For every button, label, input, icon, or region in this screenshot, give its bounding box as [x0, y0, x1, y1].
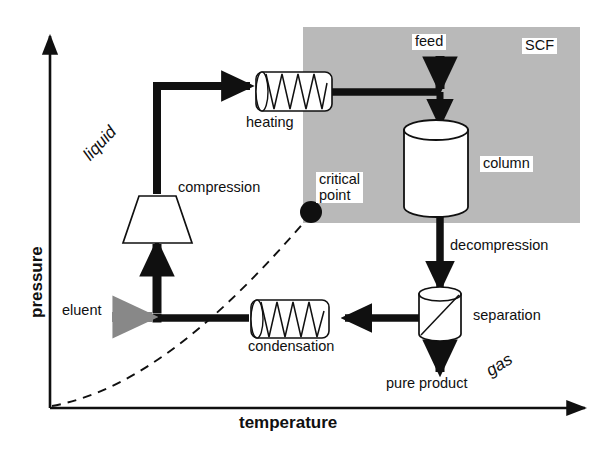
x-axis-label: temperature — [239, 414, 337, 432]
stream-label-eluent: eluent — [62, 303, 102, 319]
stream-label-feed: feed — [412, 34, 446, 50]
unit-label-compression: compression — [178, 180, 260, 196]
condensation-exchanger — [251, 300, 329, 338]
separation-column — [404, 120, 468, 217]
stream-label-pure-product: pure product — [386, 376, 467, 392]
critical-point-label: critical point — [316, 172, 363, 203]
figure-canvas: pressure temperature liquid gas SCF feed… — [0, 0, 613, 452]
unit-label-column: column — [480, 156, 533, 172]
pipe-tee-corner — [153, 314, 162, 323]
heating-exchanger — [256, 72, 332, 111]
critical-point-label-line1: critical — [319, 172, 360, 188]
y-axis-label: pressure — [28, 246, 46, 318]
compression-pump — [123, 196, 192, 243]
unit-label-heating: heating — [246, 115, 294, 131]
unit-label-condensation: condensation — [248, 339, 334, 355]
unit-label-separation: separation — [473, 308, 541, 324]
separator-vessel — [419, 287, 461, 341]
pipe-top-elbow-corner — [153, 82, 161, 90]
critical-point-dot — [300, 201, 322, 223]
phase-label-scf: SCF — [522, 38, 557, 54]
diagram-vector-layer — [0, 0, 613, 452]
critical-point-label-line2: point — [319, 188, 360, 204]
unit-label-decompression: decompression — [450, 238, 548, 254]
